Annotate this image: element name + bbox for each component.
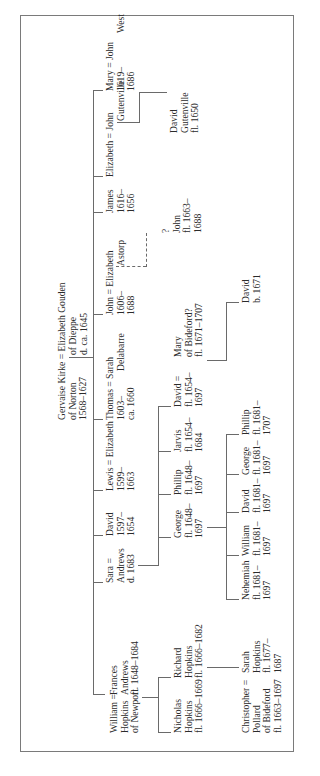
person-text-line: Mary = John xyxy=(105,42,116,91)
descent-line-gutenville xyxy=(117,122,139,123)
descent-line-david-mary xyxy=(207,360,226,361)
person-text-line: 1697 xyxy=(262,478,273,513)
child-drop xyxy=(158,494,171,495)
child-drop xyxy=(226,599,239,600)
person-text-line: fl. 1648–1684 xyxy=(130,641,141,695)
person-text-line: 1697 xyxy=(262,561,273,600)
descent-line-david-sara xyxy=(138,565,158,566)
sibling-bar-hopkins xyxy=(158,678,159,733)
person-text-line: of Dieppe xyxy=(68,313,79,355)
person-text-line: David = xyxy=(173,372,184,407)
person-text-line: David xyxy=(169,93,180,134)
child-drop xyxy=(139,92,167,93)
person-frances: FrancesAndrewsfl. 1648–1684 xyxy=(109,641,141,695)
sibling-bar-george xyxy=(226,435,227,600)
person-george-1681: Georgefl. 1681–1697 xyxy=(241,440,273,475)
person-text-line: 1688 xyxy=(126,250,137,315)
child-drop xyxy=(93,314,103,315)
person-text-line: 1697 xyxy=(194,372,205,407)
descent-line-gervaise xyxy=(69,357,93,358)
person-mary-1619: Mary = John1619–1686 xyxy=(105,42,137,91)
sibling-bar-andrews xyxy=(93,583,94,695)
person-text-line: Delabarre xyxy=(116,333,127,371)
person-sara: Sara =Andrewsd. 1683 xyxy=(105,548,137,583)
descent-line-george xyxy=(207,527,226,528)
sibling-bar-david-mary xyxy=(226,303,227,361)
descent-line-hopkins xyxy=(142,697,158,698)
person-john-west: West xyxy=(116,14,127,33)
child-drop xyxy=(93,419,103,420)
person-text-line: Jarvis xyxy=(173,417,184,452)
person-john-1663: ?Johnfl. 1663–1688 xyxy=(161,198,203,233)
person-text-line: Phillip xyxy=(241,400,252,435)
person-text-line: d. 1683 xyxy=(126,548,137,583)
person-text-line: 1697 xyxy=(194,503,205,538)
person-elizabeth-gouden: of Diepped. ca. 1645 xyxy=(68,313,89,355)
child-drop xyxy=(158,537,171,538)
person-text-line: fl. 1650 xyxy=(190,93,201,134)
child-drop xyxy=(226,434,239,435)
person-phillip-1681: Phillipfl. 1681–1707 xyxy=(241,400,273,435)
person-text-line: 1697 xyxy=(262,521,273,556)
person-christopher: Christopher =Pollardof Bidefordfl. 1663–… xyxy=(241,679,283,733)
person-text-line: Richard xyxy=(173,624,184,678)
person-text-line: ca. 1660 xyxy=(126,357,137,420)
person-david-1654: David =fl. 1654–1697 xyxy=(173,372,205,407)
child-drop xyxy=(93,212,103,213)
person-jarvis: Jarvisfl. 1654–1684 xyxy=(173,417,205,452)
person-text-line: George xyxy=(173,503,184,538)
person-text-line: David xyxy=(241,478,252,513)
uncertain-descent-line xyxy=(146,233,147,267)
person-text-line: Phillip xyxy=(173,460,184,495)
person-david-1597: David1597–1654 xyxy=(105,512,137,536)
person-text-line: West xyxy=(116,14,127,33)
child-drop xyxy=(93,582,103,583)
child-drop xyxy=(93,90,103,91)
person-text-line: Astorp xyxy=(116,240,127,266)
person-text-line: Nicholas xyxy=(173,679,184,733)
person-text-line: 1656 xyxy=(126,189,137,213)
person-mary-bideford: Maryof Bideford?fl. 1671–1707 xyxy=(173,303,205,357)
person-richard: RichardHopkinsfl. 1666–1682 xyxy=(173,624,205,678)
person-david-gutenville: DavidGutenvillefl. 1650 xyxy=(169,93,201,134)
child-drop xyxy=(93,694,105,695)
sibling-bar-david-sara xyxy=(158,407,159,566)
person-text-line: Nehemiah xyxy=(241,561,252,600)
child-drop xyxy=(158,451,171,452)
person-text-line: fl. 1666–1682 xyxy=(194,624,205,678)
person-william-hopkins: William =Hopkinsof Newport xyxy=(109,689,141,733)
person-text-line: Sara = xyxy=(105,548,116,583)
person-text-line: David xyxy=(105,512,116,536)
person-text-line: 1697 xyxy=(194,460,205,495)
person-text-line: 1687 xyxy=(273,638,284,673)
person-david-1681: Davidfl. 1681–1697 xyxy=(241,478,273,513)
sibling-bar-gutenville xyxy=(139,93,140,123)
person-text-line: 1684 xyxy=(194,417,205,452)
person-text-line: 1707 xyxy=(262,400,273,435)
person-text-line: d. ca. 1645 xyxy=(79,313,90,355)
person-elizabeth-g: Elizabeth = John xyxy=(105,112,116,177)
person-nicholas: NicholasHopkinsfl. 1666–1669 xyxy=(173,679,205,733)
person-text-line: Gervaise Kirke = Elizabeth Gouden xyxy=(57,282,68,420)
person-text-line: 1697 xyxy=(262,440,273,475)
child-drop xyxy=(226,302,239,303)
person-text-line: David xyxy=(241,274,252,303)
person-text-line: 1654 xyxy=(126,512,137,536)
person-text-line: 1686 xyxy=(126,42,137,91)
genealogy-chart-frame: Gervaise Kirke = Elizabeth Goudenof Nort… xyxy=(20,15,294,752)
person-text-line: John = Elizabeth xyxy=(105,250,116,315)
person-text-line: George xyxy=(241,440,252,475)
child-drop xyxy=(158,677,171,678)
person-text-line: Thomas = Sarah xyxy=(105,357,116,420)
person-text-line: ? xyxy=(161,198,172,233)
person-david-1671: Davidb. 1671 xyxy=(241,274,262,303)
person-text-line: Christopher = xyxy=(241,679,252,733)
person-nehemiah: Nehemiahfl. 1681–1697 xyxy=(241,561,273,600)
child-drop xyxy=(226,555,239,556)
child-drop xyxy=(93,176,103,177)
child-drop xyxy=(226,474,239,475)
child-drop xyxy=(158,732,171,733)
uncertain-descent-line xyxy=(116,266,146,267)
person-lewis: Lewis = Elizabeth1599–1663 xyxy=(105,421,137,491)
child-drop xyxy=(93,535,103,536)
